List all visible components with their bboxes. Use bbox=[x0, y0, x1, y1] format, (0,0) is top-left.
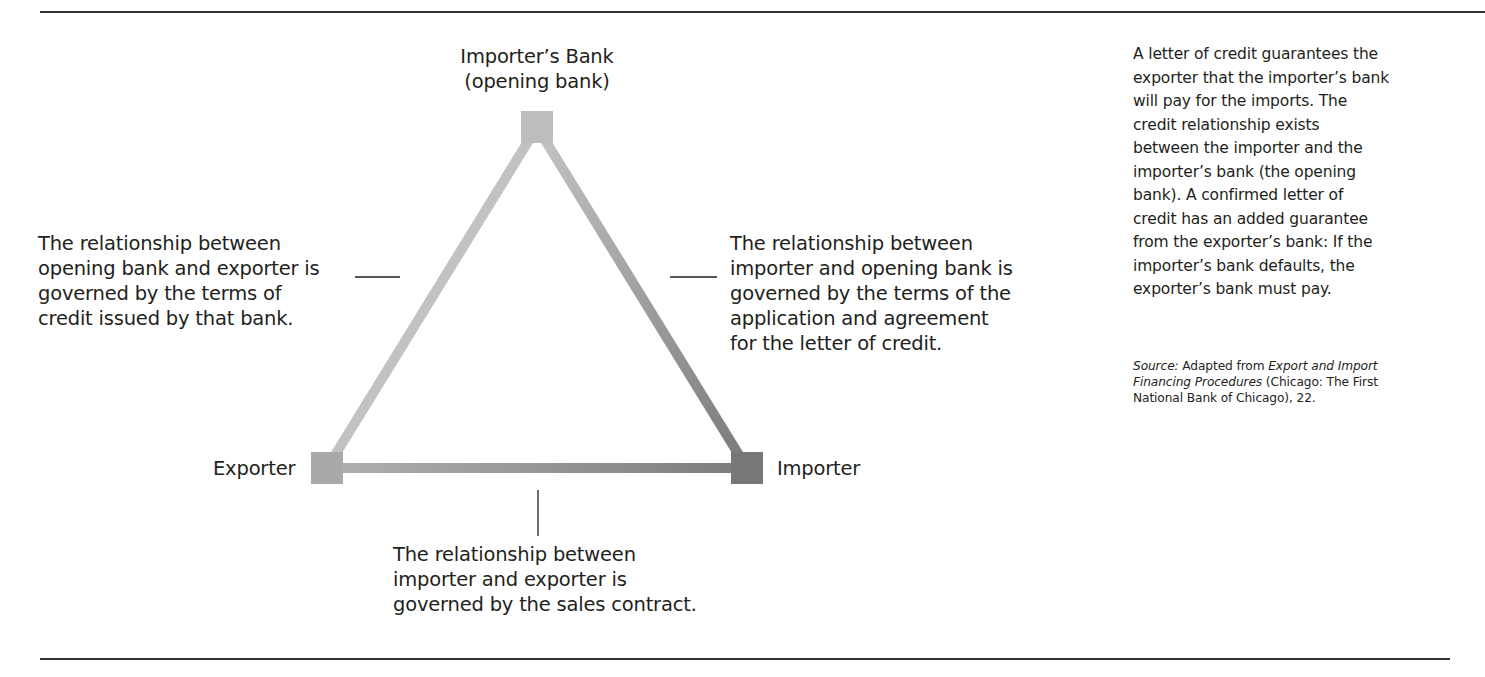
caption-line: credit relationship exists bbox=[1133, 114, 1485, 138]
annotation-right-line: for the letter of credit. bbox=[730, 331, 1013, 356]
label-exporter: Exporter bbox=[213, 456, 295, 481]
edge-bank-importer bbox=[537, 127, 747, 468]
edge-bank-exporter bbox=[327, 127, 537, 468]
caption-line: importer’s bank (the opening bbox=[1133, 161, 1485, 185]
annotation-left-line: governed by the terms of bbox=[38, 281, 319, 306]
annotation-right-line: governed by the terms of the bbox=[730, 281, 1013, 306]
label-importers-bank-line1: Importer’s Bank bbox=[437, 44, 637, 69]
source-label: Source: bbox=[1133, 359, 1179, 373]
caption-line: A letter of credit guarantees the bbox=[1133, 43, 1485, 67]
caption-line: exporter that the importer’s bank bbox=[1133, 67, 1485, 91]
annotation-bottom-line: governed by the sales contract. bbox=[393, 592, 697, 617]
annotation-bottom: The relationship between importer and ex… bbox=[393, 542, 697, 617]
source-line-2: Financing Procedures (Chicago: The First bbox=[1133, 374, 1485, 390]
node-exporter bbox=[311, 452, 343, 484]
caption-line: from the exporter’s bank: If the bbox=[1133, 231, 1485, 255]
annotation-right-line: The relationship between bbox=[730, 231, 1013, 256]
sidebar-caption: A letter of credit guarantees the export… bbox=[1133, 43, 1485, 302]
caption-line: will pay for the imports. The bbox=[1133, 90, 1485, 114]
source-prefix: Adapted from bbox=[1179, 359, 1269, 373]
caption-line: credit has an added guarantee bbox=[1133, 208, 1485, 232]
caption-line: bank). A confirmed letter of bbox=[1133, 184, 1485, 208]
source-line-1: Source: Adapted from Export and Import bbox=[1133, 358, 1485, 374]
node-importer bbox=[731, 452, 763, 484]
annotation-left-line: The relationship between bbox=[38, 231, 319, 256]
annotation-right: The relationship between importer and op… bbox=[730, 231, 1013, 356]
annotation-right-line: application and agreement bbox=[730, 306, 1013, 331]
source-title-part1: Export and Import bbox=[1268, 359, 1377, 373]
source-line-3: National Bank of Chicago), 22. bbox=[1133, 390, 1485, 406]
source-title-part2: Financing Procedures bbox=[1133, 375, 1262, 389]
label-importers-bank: Importer’s Bank (opening bank) bbox=[437, 44, 637, 94]
caption-line: between the importer and the bbox=[1133, 137, 1485, 161]
source-suffix: (Chicago: The First bbox=[1262, 375, 1378, 389]
source-note: Source: Adapted from Export and Import F… bbox=[1133, 358, 1485, 406]
annotation-left: The relationship between opening bank an… bbox=[38, 231, 319, 331]
annotation-left-line: credit issued by that bank. bbox=[38, 306, 319, 331]
label-importers-bank-line2: (opening bank) bbox=[437, 69, 637, 94]
caption-line: importer’s bank defaults, the bbox=[1133, 255, 1485, 279]
node-importers-bank bbox=[521, 111, 553, 143]
label-importer: Importer bbox=[777, 456, 860, 481]
annotation-bottom-line: importer and exporter is bbox=[393, 567, 697, 592]
annotation-left-line: opening bank and exporter is bbox=[38, 256, 319, 281]
annotation-bottom-line: The relationship between bbox=[393, 542, 697, 567]
caption-line: exporter’s bank must pay. bbox=[1133, 278, 1485, 302]
annotation-right-line: importer and opening bank is bbox=[730, 256, 1013, 281]
